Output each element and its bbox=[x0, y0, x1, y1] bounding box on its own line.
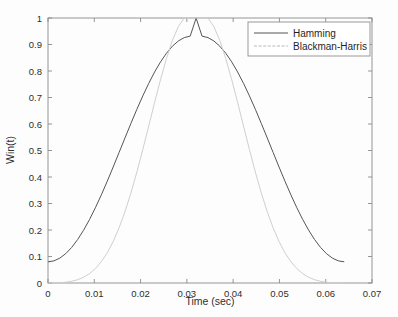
plot-axes-frame bbox=[48, 18, 372, 283]
y-tick-label: 0.6 bbox=[29, 119, 42, 130]
figure-canvas: 00.010.020.030.040.050.060.07 00.10.20.3… bbox=[0, 0, 398, 317]
y-tick-label: 0.1 bbox=[29, 251, 42, 262]
legend[interactable]: Hamming Blackman-Harris bbox=[248, 22, 370, 56]
x-axis-title: Time (sec) bbox=[185, 295, 234, 307]
x-tick-label: 0.05 bbox=[270, 288, 289, 299]
x-tick-label: 0.02 bbox=[131, 288, 150, 299]
curve-blackman-harris bbox=[48, 18, 344, 283]
window-function-plot: 00.010.020.030.040.050.060.07 00.10.20.3… bbox=[0, 0, 398, 317]
x-tick-label: 0 bbox=[45, 288, 50, 299]
y-tick-label: 0 bbox=[37, 278, 42, 289]
x-tick-label: 0.06 bbox=[316, 288, 335, 299]
legend-label-blackman-harris: Blackman-Harris bbox=[293, 41, 367, 52]
x-tick-label: 0.07 bbox=[363, 288, 382, 299]
y-tick-label: 0.4 bbox=[29, 172, 42, 183]
y-tick-label: 0.7 bbox=[29, 92, 42, 103]
y-axis-title: Win(t) bbox=[4, 136, 16, 164]
y-tick-label: 0.9 bbox=[29, 39, 42, 50]
y-tick-label: 1 bbox=[37, 13, 42, 24]
y-tick-label: 0.8 bbox=[29, 66, 42, 77]
y-tick-label: 0.3 bbox=[29, 198, 42, 209]
legend-label-hamming: Hamming bbox=[293, 28, 336, 39]
y-axis-ticks bbox=[48, 18, 372, 283]
y-axis-tick-labels: 00.10.20.30.40.50.60.70.80.91 bbox=[29, 13, 42, 289]
x-tick-label: 0.01 bbox=[85, 288, 104, 299]
data-curves bbox=[48, 18, 344, 283]
y-tick-label: 0.2 bbox=[29, 225, 42, 236]
y-tick-label: 0.5 bbox=[29, 145, 42, 156]
x-axis-ticks bbox=[48, 18, 372, 283]
